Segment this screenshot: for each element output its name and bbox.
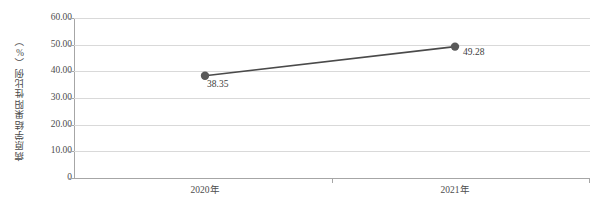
- y-tick-label: 10.00: [28, 147, 72, 157]
- y-tick-label: 50.00: [28, 40, 72, 50]
- x-axis-category-label: 2021年: [441, 186, 470, 196]
- x-axis-tickmark: [589, 178, 590, 183]
- y-tick-label: 40.00: [28, 67, 72, 77]
- line-chart: 病原学结果阳性比例（%） 0 10.00 20.00 30.00 40.00 5…: [0, 0, 607, 211]
- series-line: [74, 18, 590, 178]
- x-axis-category-label: 2020年: [191, 186, 220, 196]
- y-axis-tick-labels: 0 10.00 20.00 30.00 40.00 50.00 60.00: [28, 0, 72, 211]
- data-point-label: 38.35: [207, 80, 228, 90]
- plot-area: 38.35 49.28: [74, 18, 590, 178]
- y-tick-label: 0: [28, 173, 72, 183]
- x-axis-tickmark: [332, 178, 333, 183]
- y-tick-label: 20.00: [28, 120, 72, 130]
- y-tick-label: 60.00: [28, 13, 72, 23]
- data-point-label: 49.28: [463, 48, 484, 58]
- y-axis-title-text: 病原学结果阳性比例（%）: [15, 36, 25, 161]
- data-point-marker: [451, 42, 459, 50]
- y-tick-label: 30.00: [28, 93, 72, 103]
- series-segment: [205, 47, 455, 76]
